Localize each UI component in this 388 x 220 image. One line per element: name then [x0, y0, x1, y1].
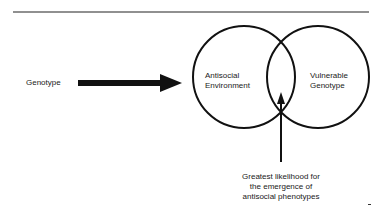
genotype-arrow-shaft [78, 80, 162, 86]
callout-label: Greatest likelihood for the emergence of… [221, 172, 341, 202]
page-mark [368, 204, 371, 205]
vulnerable-genotype-label: Vulnerable Genotype [310, 71, 348, 91]
genotype-label: Genotype [26, 78, 61, 88]
callout-arrow-head [277, 92, 285, 104]
genotype-arrow-head [160, 74, 182, 92]
antisocial-environment-label: Antisocial Environment [205, 71, 250, 91]
